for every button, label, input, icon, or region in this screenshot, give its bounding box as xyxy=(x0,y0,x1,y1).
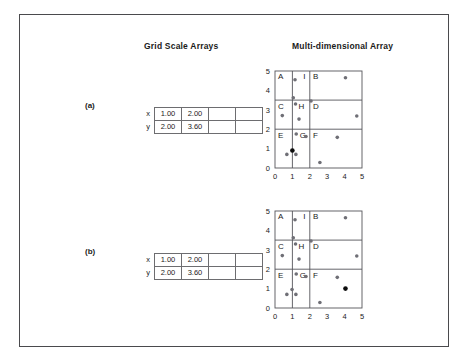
row-label-y: y xyxy=(139,267,155,280)
row-label-x: x xyxy=(139,254,155,267)
data-point xyxy=(318,301,322,305)
cell-label-a: A xyxy=(278,72,284,81)
cell-x-1: 2.00 xyxy=(182,108,209,121)
y-tick-label: 5 xyxy=(266,207,270,216)
cell-label-e: E xyxy=(278,271,283,280)
y-tick-label: 4 xyxy=(266,226,270,235)
data-point xyxy=(293,218,297,222)
y-tick-label: 0 xyxy=(266,304,270,313)
cell-label-b: B xyxy=(313,72,318,81)
y-tick-label: 3 xyxy=(266,106,270,115)
x-tick-label: 5 xyxy=(360,312,364,321)
cell-label-i: I xyxy=(303,212,305,221)
data-point xyxy=(291,96,295,100)
y-tick-label: 4 xyxy=(266,86,270,95)
cell-label-b: B xyxy=(313,212,318,221)
cell-label-d: D xyxy=(313,102,319,111)
cell-x-1: 2.00 xyxy=(182,254,209,267)
cell-y-0: 2.00 xyxy=(155,267,182,280)
data-point xyxy=(281,114,285,118)
y-tick-label: 2 xyxy=(266,265,270,274)
data-point xyxy=(285,153,289,157)
table-row: y 2.00 3.60 xyxy=(139,267,263,280)
table-row: y 2.00 3.60 xyxy=(139,121,263,134)
panel-label-b: (b) xyxy=(85,247,95,256)
cell-x-0: 1.00 xyxy=(155,108,182,121)
data-point xyxy=(281,254,285,258)
x-tick-label: 0 xyxy=(273,172,277,181)
data-point xyxy=(291,236,295,240)
data-point xyxy=(297,257,301,261)
x-tick-label: 2 xyxy=(308,172,312,181)
data-point xyxy=(304,135,308,139)
column-header-grid-scale-arrays: Grid Scale Arrays xyxy=(144,41,218,51)
data-point xyxy=(355,254,359,258)
cell-y-0: 2.00 xyxy=(155,121,182,134)
y-tick-label: 5 xyxy=(266,67,270,76)
grid-scale-array-table-b: x 1.00 2.00 y 2.00 3.60 xyxy=(139,253,263,280)
table-row: x 1.00 2.00 xyxy=(139,108,263,121)
cell-x-2 xyxy=(209,254,236,267)
x-tick-label: 2 xyxy=(308,312,312,321)
data-point xyxy=(294,242,298,246)
cell-x-2 xyxy=(209,108,236,121)
data-point xyxy=(294,132,298,136)
cell-label-h: H xyxy=(298,102,304,111)
multi-dimensional-array-chart-a: 012345012345AIBCHDEGF xyxy=(256,67,366,185)
table-row: x 1.00 2.00 xyxy=(139,254,263,267)
y-tick-label: 1 xyxy=(266,144,270,153)
cell-label-a: A xyxy=(278,212,284,221)
data-point xyxy=(285,293,289,297)
cell-label-d: D xyxy=(313,242,319,251)
x-tick-label: 3 xyxy=(325,312,329,321)
column-header-multi-dimensional-array: Multi-dimensional Array xyxy=(292,41,393,51)
panel-label-a: (a) xyxy=(85,101,95,110)
data-point xyxy=(344,76,348,80)
x-tick-label: 1 xyxy=(290,312,294,321)
cell-label-f: F xyxy=(313,131,318,140)
cell-label-c: C xyxy=(278,102,284,111)
cell-x-0: 1.00 xyxy=(155,254,182,267)
data-point xyxy=(290,288,294,292)
cell-y-1: 3.60 xyxy=(182,267,209,280)
x-tick-label: 1 xyxy=(290,172,294,181)
row-label-x: x xyxy=(139,108,155,121)
row-label-y: y xyxy=(139,121,155,134)
data-point xyxy=(309,239,313,243)
cell-y-2 xyxy=(209,267,236,280)
data-point xyxy=(294,153,298,157)
figure-frame: Grid Scale Arrays Multi-dimensional Arra… xyxy=(19,14,449,347)
y-tick-label: 3 xyxy=(266,246,270,255)
data-point xyxy=(304,275,308,279)
cell-label-c: C xyxy=(278,242,284,251)
data-point xyxy=(318,161,322,165)
multi-dimensional-array-chart-b: 012345012345AIBCHDEGF xyxy=(256,207,366,325)
y-tick-label: 1 xyxy=(266,284,270,293)
y-tick-label: 2 xyxy=(266,125,270,134)
x-tick-label: 4 xyxy=(343,312,347,321)
x-tick-label: 5 xyxy=(360,172,364,181)
x-tick-label: 0 xyxy=(273,312,277,321)
cell-label-h: H xyxy=(298,242,304,251)
data-point xyxy=(309,99,313,103)
data-point xyxy=(294,293,298,297)
x-tick-label: 4 xyxy=(343,172,347,181)
data-point xyxy=(335,136,339,140)
data-point xyxy=(294,102,298,106)
cell-label-e: E xyxy=(278,131,283,140)
cell-y-1: 3.60 xyxy=(182,121,209,134)
y-tick-label: 0 xyxy=(266,164,270,173)
data-point-highlighted xyxy=(343,286,348,291)
data-point xyxy=(344,216,348,220)
data-point xyxy=(294,272,298,276)
cell-label-f: F xyxy=(313,271,318,280)
data-point xyxy=(293,78,297,82)
data-point xyxy=(297,117,301,121)
x-tick-label: 3 xyxy=(325,172,329,181)
data-point-highlighted xyxy=(290,148,295,153)
data-point xyxy=(355,114,359,118)
cell-y-2 xyxy=(209,121,236,134)
data-point xyxy=(335,276,339,280)
cell-label-i: I xyxy=(303,72,305,81)
grid-scale-array-table-a: x 1.00 2.00 y 2.00 3.60 xyxy=(139,107,263,134)
